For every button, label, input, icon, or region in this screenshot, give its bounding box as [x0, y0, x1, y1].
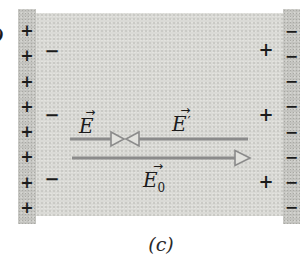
e-prime-symbol: E′: [172, 114, 191, 134]
e-field-label: → E: [79, 106, 94, 136]
capacitor-dielectric-figure: ) + + + + + + + + − − − − − − − − − − − …: [0, 0, 305, 259]
e0-symbol: E0: [143, 170, 165, 194]
e0-field-label: → E0: [143, 160, 165, 194]
e-prime-field-label: → E′: [172, 104, 191, 134]
vector-arrow-icon: →: [85, 106, 95, 118]
vector-arrow-icon: →: [180, 104, 190, 116]
figure-caption: (c): [134, 233, 188, 255]
e-prime-field-arrow: [126, 132, 248, 146]
field-arrows: [0, 0, 305, 259]
vector-arrow-icon: →: [153, 160, 163, 172]
e-symbol: E: [79, 116, 94, 136]
